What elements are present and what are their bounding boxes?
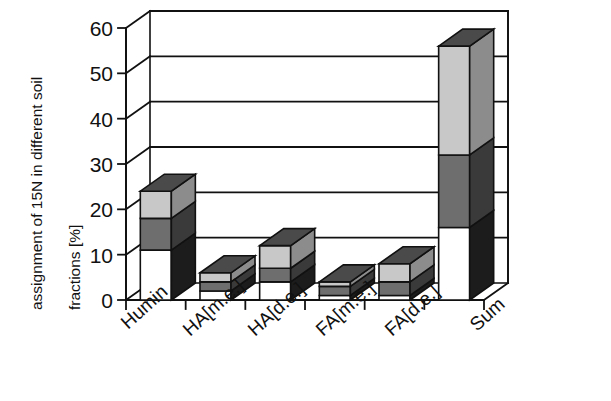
bar-0-segment-2-front [140, 191, 171, 218]
bar-5-segment-2-front [439, 46, 470, 155]
plot-area: 0102030405060 [90, 11, 508, 312]
y-tick-label-50: 50 [90, 62, 113, 85]
bar-2-segment-2-front [260, 246, 291, 269]
bar-2-segment-1-front [260, 268, 291, 282]
bar-4-segment-1-front [379, 282, 410, 296]
y-tick-label-10: 10 [90, 244, 113, 267]
y-tick-label-20: 20 [90, 198, 113, 221]
bar-humin[interactable] [140, 174, 195, 300]
y-axis-title-line1: assignment of 15N in different soil [28, 77, 45, 310]
bar-0-segment-1-front [140, 218, 171, 250]
y-axis-title-line2: fractions [%] [66, 225, 83, 310]
bar-5-segment-0-front [439, 227, 470, 300]
y-tick-label-30: 30 [90, 153, 113, 176]
depth-connector-60 [126, 11, 150, 28]
chart-figure: assignment of 15N in different soil frac… [0, 0, 611, 401]
bar-5-segment-1-front [439, 155, 470, 228]
bar-sum[interactable] [439, 29, 494, 300]
y-tick-label-60: 60 [90, 17, 113, 40]
depth-connector-30 [126, 147, 150, 164]
y-axis-title: assignment of 15N in different soil frac… [28, 77, 83, 310]
y-tick-label-40: 40 [90, 108, 113, 131]
bar-4-segment-2-front [379, 264, 410, 282]
stacked-3d-bar-chart: assignment of 15N in different soil frac… [0, 0, 611, 401]
depth-connector-50 [126, 56, 150, 73]
y-tick-label-0: 0 [101, 289, 113, 312]
depth-connector-40 [126, 102, 150, 119]
bar-5-segment-2-side [470, 29, 494, 155]
